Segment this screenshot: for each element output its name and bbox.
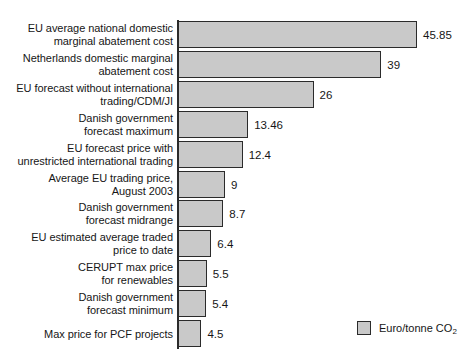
chart-legend: Euro/tonne CO2: [357, 321, 457, 335]
bar-value-label: 5.5: [213, 268, 229, 280]
bar-value-label: 13.46: [254, 119, 283, 131]
legend-label-subscript: 2: [452, 327, 456, 336]
bar-category-label: Danish government forecast minimum: [8, 291, 173, 317]
legend-label-text: Euro/tonne CO: [379, 322, 452, 334]
bar-value-label: 9: [231, 179, 237, 191]
bar-value-label: 12.4: [249, 149, 271, 161]
bar-category-label: EU estimated average traded price to dat…: [8, 231, 173, 257]
bar-chart: EU average national domestic marginal ab…: [0, 0, 475, 362]
bar-category-label: EU average national domestic marginal ab…: [8, 22, 173, 48]
bar: [178, 171, 225, 198]
bar: [178, 230, 211, 257]
bar-row: Danish government forecast maximum13.46: [0, 110, 475, 140]
bar: [178, 21, 417, 48]
bar-row: EU forecast without international tradin…: [0, 80, 475, 110]
bar-value-label: 4.5: [207, 328, 223, 340]
bar-value-label: 6.4: [217, 238, 233, 250]
bar: [178, 290, 206, 317]
bar-category-label: Netherlands domestic marginal abatement …: [8, 52, 173, 78]
bar-row: Danish government forecast midrange8.7: [0, 199, 475, 229]
bar: [178, 51, 381, 78]
legend-swatch-euro-tonne-co2: [357, 321, 371, 335]
bar-category-label: Danish government forecast midrange: [8, 201, 173, 227]
bar-category-label: EU forecast price with unrestricted inte…: [8, 142, 173, 168]
legend-label-euro-tonne-co2: Euro/tonne CO2: [379, 322, 457, 334]
bar-category-label: EU forecast without international tradin…: [8, 82, 173, 108]
bar-value-label: 8.7: [229, 208, 245, 220]
bar-category-label: CERUPT max price for renewables: [8, 261, 173, 287]
bar-rows-container: EU average national domestic marginal ab…: [0, 0, 475, 362]
bar-row: EU forecast price with unrestricted inte…: [0, 140, 475, 170]
bar-row: EU estimated average traded price to dat…: [0, 229, 475, 259]
bar-row: Average EU trading price, August 20039: [0, 170, 475, 200]
bar-value-label: 45.85: [423, 29, 452, 41]
bar-row: EU average national domestic marginal ab…: [0, 20, 475, 50]
bar: [178, 200, 223, 227]
bar: [178, 320, 201, 347]
bar-row: Netherlands domestic marginal abatement …: [0, 50, 475, 80]
bar-category-label: Average EU trading price, August 2003: [8, 172, 173, 198]
bar: [178, 260, 207, 287]
bar-category-label: Danish government forecast maximum: [8, 112, 173, 138]
bar: [178, 141, 243, 168]
bar-category-label: Max price for PCF projects: [8, 328, 173, 341]
bar-row: Danish government forecast minimum5.4: [0, 289, 475, 319]
bar: [178, 81, 314, 108]
bar-value-label: 26: [320, 89, 333, 101]
bar-value-label: 5.4: [212, 298, 228, 310]
bar: [178, 111, 248, 138]
bar-row: CERUPT max price for renewables5.5: [0, 259, 475, 289]
bar-value-label: 39: [387, 59, 400, 71]
